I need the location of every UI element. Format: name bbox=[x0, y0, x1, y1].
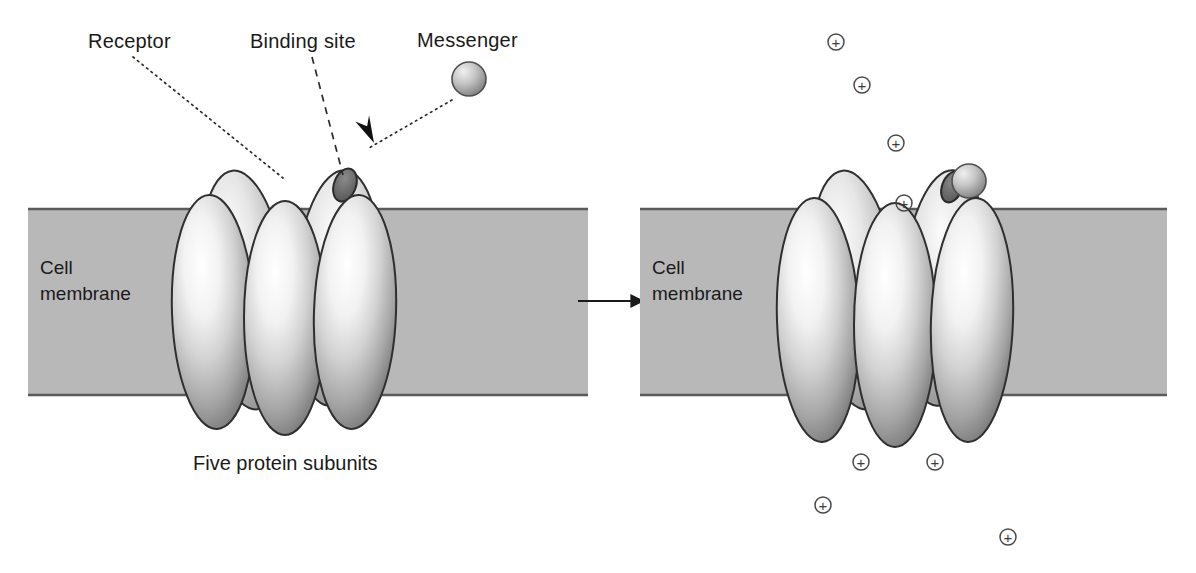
ion-plus-icon: + bbox=[1000, 529, 1016, 546]
ion-plus-icon: + bbox=[888, 135, 904, 152]
ion-charge-symbol: + bbox=[858, 77, 867, 94]
cell-membrane-label-left-line1: Cell bbox=[40, 257, 73, 278]
ion-channel-figure: Cell membrane Receptor Binding site Mess… bbox=[0, 0, 1196, 573]
messenger-leader-line bbox=[369, 100, 452, 148]
receptor-front-subunits-left bbox=[168, 194, 400, 435]
ion-plus-icon: + bbox=[828, 34, 844, 51]
binding-site-leader-line bbox=[312, 57, 343, 175]
ion-plus-icon: + bbox=[853, 454, 869, 471]
cell-membrane-label-right-line2: membrane bbox=[652, 283, 743, 304]
receptor-front-subunits-right bbox=[773, 197, 1017, 447]
ions-intracellular: ++++ bbox=[815, 454, 1016, 546]
protein-subunit bbox=[854, 203, 936, 447]
ion-charge-symbol: + bbox=[900, 195, 909, 212]
receptor-label: Receptor bbox=[88, 30, 171, 52]
ion-charge-symbol: + bbox=[832, 34, 841, 51]
messenger-sphere-free bbox=[452, 62, 486, 96]
diagram-canvas: Cell membrane Receptor Binding site Mess… bbox=[0, 0, 1196, 573]
ion-charge-symbol: + bbox=[1004, 529, 1013, 546]
ion-plus-icon: + bbox=[854, 77, 870, 94]
messenger-label: Messenger bbox=[417, 29, 518, 51]
ion-charge-symbol: + bbox=[931, 454, 940, 471]
right-panel-open: Cell membrane ++++ ++++ bbox=[640, 34, 1167, 546]
receptor-leader-line bbox=[133, 57, 283, 178]
ion-charge-symbol: + bbox=[892, 135, 901, 152]
ion-charge-symbol: + bbox=[819, 497, 828, 514]
ion-plus-icon: + bbox=[815, 497, 831, 514]
left-panel-closed: Cell membrane Receptor Binding site Mess… bbox=[28, 29, 588, 474]
cell-membrane-label-left-line2: membrane bbox=[40, 283, 131, 304]
messenger-sphere-bound bbox=[952, 164, 986, 198]
ion-charge-symbol: + bbox=[857, 454, 866, 471]
leader-lines-left bbox=[133, 57, 452, 178]
messenger-molecule bbox=[452, 62, 486, 96]
messenger-molecule bbox=[952, 164, 986, 198]
binding-site-label: Binding site bbox=[250, 30, 356, 52]
five-protein-subunits-caption: Five protein subunits bbox=[193, 452, 378, 474]
cell-membrane-label-right-line1: Cell bbox=[652, 257, 685, 278]
messenger-arrowhead-icon bbox=[351, 111, 385, 143]
ion-plus-icon: + bbox=[927, 454, 943, 471]
